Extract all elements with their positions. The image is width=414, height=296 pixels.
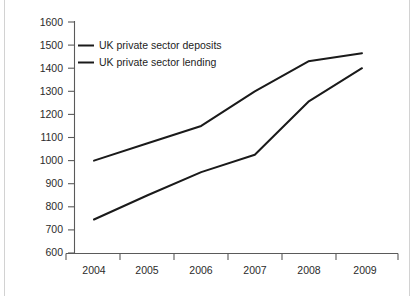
legend-label-lending: UK private sector lending <box>99 56 216 68</box>
y-tick-label: 1000 <box>40 154 64 166</box>
y-tick-label: 1600 <box>40 16 64 28</box>
legend-label-deposits: UK private sector deposits <box>99 39 222 51</box>
y-tick-label: 1300 <box>40 85 64 97</box>
series-line-deposits <box>94 53 362 160</box>
y-axis-tick-labels: 1600 1500 1400 1300 1200 1100 1000 900 8… <box>40 16 64 258</box>
y-tick-label: 900 <box>45 177 63 189</box>
y-tick-label: 1500 <box>40 39 64 51</box>
x-tick-label-2004: 2004 <box>82 264 106 276</box>
x-tick-label-2007: 2007 <box>243 264 267 276</box>
chart-legend: UK private sector deposits UK private se… <box>78 39 222 68</box>
x-axis-tick-labels: 2004 2005 2006 2007 2008 2009 <box>82 264 377 276</box>
x-tick-label-2008: 2008 <box>297 264 321 276</box>
x-tick-label-2005: 2005 <box>135 264 159 276</box>
y-tick-label: 700 <box>45 223 63 235</box>
x-tick-label-2006: 2006 <box>189 264 213 276</box>
line-chart-canvas: 1600 1500 1400 1300 1200 1100 1000 900 8… <box>0 0 414 296</box>
chart-figure: 1600 1500 1400 1300 1200 1100 1000 900 8… <box>0 0 414 296</box>
x-tick-label-2009: 2009 <box>353 264 377 276</box>
x-axis-ticks <box>66 254 398 261</box>
y-tick-label: 1400 <box>40 62 64 74</box>
y-axis-ticks <box>68 22 75 253</box>
y-tick-label: 800 <box>45 200 63 212</box>
series-line-lending <box>94 68 362 219</box>
y-tick-label: 1100 <box>40 131 63 143</box>
y-tick-label: 1200 <box>40 108 64 120</box>
y-tick-label: 600 <box>45 246 63 258</box>
